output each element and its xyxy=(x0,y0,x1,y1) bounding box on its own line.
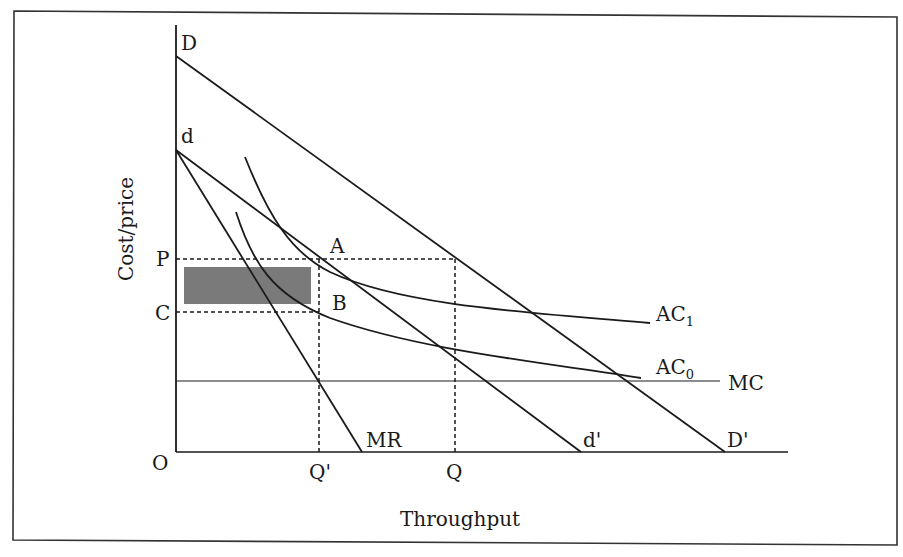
label-D: D xyxy=(181,31,197,55)
label-AC0: AC0 xyxy=(655,355,694,382)
label-A: A xyxy=(329,234,345,258)
label-C: C xyxy=(155,301,170,325)
label-d: d xyxy=(181,124,194,148)
y-axis-label: Cost/price xyxy=(114,177,138,281)
label-B: B xyxy=(332,291,347,315)
label-Dprime: D' xyxy=(727,428,749,452)
label-O: O xyxy=(152,451,168,475)
label-Qprime: Q' xyxy=(309,460,331,484)
label-AC1: AC1 xyxy=(655,302,694,329)
x-axis-label: Throughput xyxy=(400,507,520,531)
label-dprime: d' xyxy=(583,428,601,452)
label-MC: MC xyxy=(728,371,764,395)
label-MR: MR xyxy=(366,428,402,452)
d-market-demand-line xyxy=(176,56,725,452)
economics-diagram: D d P C O Q' Q A B MR d' D' MC AC1 AC0 T… xyxy=(0,0,903,557)
label-Q: Q xyxy=(446,460,462,484)
diagram-frame: D d P C O Q' Q A B MR d' D' MC AC1 AC0 T… xyxy=(0,0,903,557)
label-P: P xyxy=(156,247,169,271)
